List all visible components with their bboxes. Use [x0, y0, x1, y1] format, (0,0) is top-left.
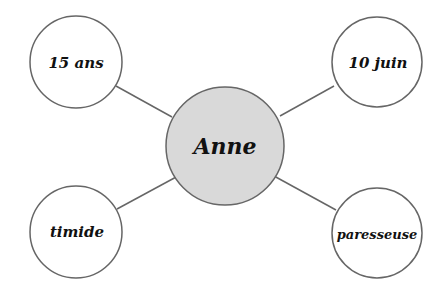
- connector-bottom-left: [117, 176, 178, 209]
- node-label-bottom-left: timide: [50, 223, 104, 241]
- node-label-top-right: 10 juin: [348, 54, 407, 72]
- node-bottom-left: timide: [30, 186, 122, 278]
- connector-top-right: [280, 86, 334, 116]
- mind-map-diagram: Anne 15 ans 10 juin timide paresseuse: [0, 0, 443, 296]
- connector-top-left: [116, 86, 172, 117]
- node-label-top-left: 15 ans: [48, 54, 104, 72]
- center-node: Anne: [166, 87, 284, 205]
- node-label-bottom-right: paresseuse: [337, 227, 418, 242]
- connector-bottom-right: [274, 176, 336, 210]
- node-bottom-right: paresseuse: [332, 188, 422, 278]
- node-top-right: 10 juin: [332, 17, 422, 107]
- center-label: Anne: [191, 133, 256, 159]
- node-top-left: 15 ans: [30, 16, 122, 108]
